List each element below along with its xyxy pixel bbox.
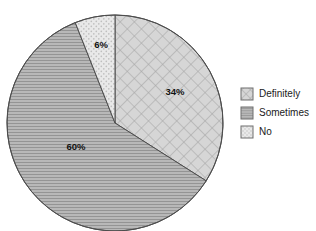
pie-chart-figure: 34% 60% 6% Definitely Sometimes No (0, 0, 316, 231)
legend-swatch-definitely (241, 88, 253, 100)
legend-item-sometimes[interactable]: Sometimes (241, 107, 309, 119)
legend-label-definitely: Definitely (259, 88, 300, 99)
legend-label-no: No (259, 126, 272, 137)
legend-item-definitely[interactable]: Definitely (241, 88, 300, 100)
legend-label-sometimes: Sometimes (259, 107, 309, 118)
pie-label-sometimes: 60% (66, 141, 86, 152)
chart-canvas: 34% 60% 6% Definitely Sometimes No (0, 0, 316, 231)
pie-slices (7, 15, 223, 231)
pie-label-no: 6% (94, 39, 108, 50)
legend-swatch-no (241, 126, 253, 138)
pie-label-definitely: 34% (165, 86, 185, 97)
legend-swatch-sometimes (241, 107, 253, 119)
